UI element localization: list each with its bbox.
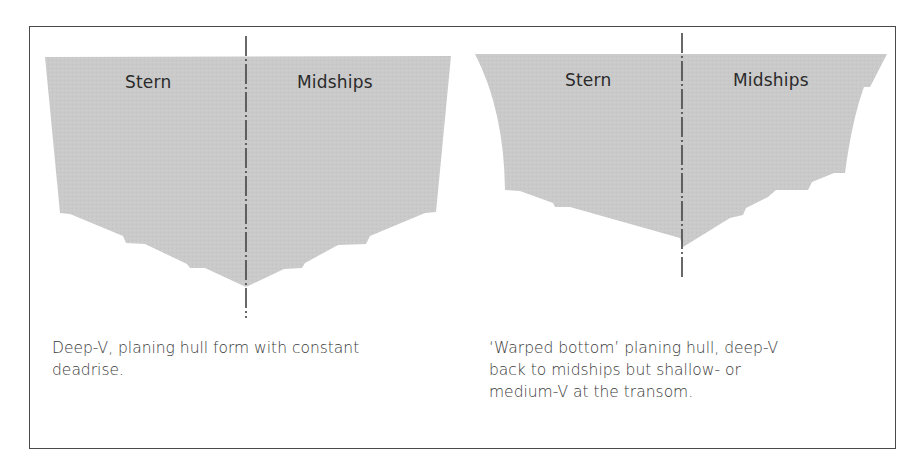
deep-v-stern-label: Stern [125,72,171,92]
caption-line: ‘Warped bottom’ planing hull, deep-V [489,337,778,359]
caption-line: back to midships but shallow- or [489,359,778,381]
warped-bottom-hull-shape [475,54,887,247]
warped-stern-label: Stern [565,70,611,90]
caption-line: Deep-V, planing hull form with constant [52,337,359,359]
deep-v-hull-section [45,36,451,318]
caption-line: medium-V at the transom. [489,381,778,403]
deep-v-caption: Deep-V, planing hull form with constant … [52,337,359,381]
warped-midships-label: Midships [733,70,809,90]
caption-line: deadrise. [52,359,359,381]
warped-bottom-hull-section [475,33,887,280]
warped-bottom-caption: ‘Warped bottom’ planing hull, deep-V bac… [489,337,778,403]
deep-v-midships-label: Midships [297,72,373,92]
deep-v-hull-shape [45,56,451,287]
